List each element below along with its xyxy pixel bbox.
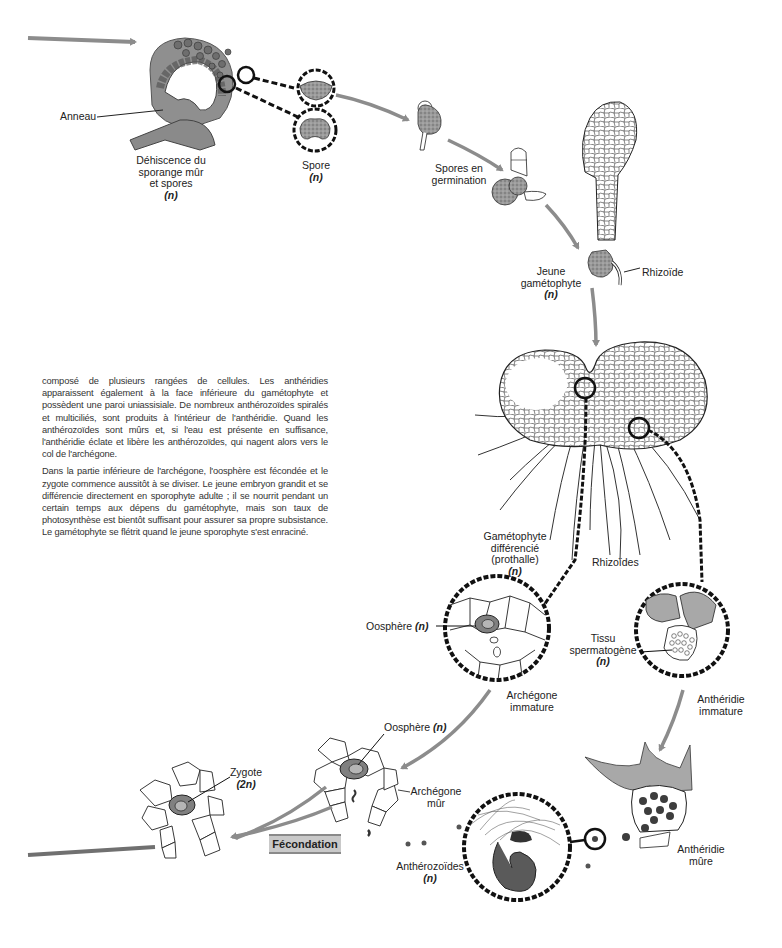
label-anneau-text: Anneau: [60, 110, 96, 122]
label-antherozoides: Anthérozoïdes (n): [393, 861, 467, 884]
label-gametophyte-differencie-ploidy: (n): [480, 566, 550, 578]
label-antherozoides-text: Anthérozoïdes: [393, 861, 467, 873]
label-antheridie-mure: Anthéridie mûre: [671, 844, 731, 867]
label-antherozoides-ploidy: (n): [393, 873, 467, 885]
label-archegone-immature-line2: immature: [502, 702, 562, 714]
body-paragraph-2: Dans la partie inférieure de l'archégone…: [42, 465, 328, 538]
antherozoide-zoom: [406, 794, 606, 900]
label-jeune-gametophyte-line1: Jeune: [517, 266, 585, 278]
archegone-mur: [314, 734, 410, 836]
label-anneau: Anneau: [60, 111, 96, 123]
label-zygote-text: Zygote: [226, 767, 266, 779]
label-dehiscence-line3: et spores: [126, 178, 216, 190]
label-antheridie-immature-line1: Anthéridie: [690, 694, 752, 706]
label-rhizoides: Rhizoïdes: [592, 557, 639, 569]
label-gametophyte-differencie: Gamétophyte différencié (prothalle) (n): [480, 531, 550, 577]
label-gametophyte-differencie-line3: (prothalle): [480, 554, 550, 566]
label-oosphere-1: Oosphère (n): [366, 621, 428, 633]
label-rhizoide-text: Rhizoïde: [642, 266, 683, 278]
spore-zoom: [219, 67, 336, 151]
label-tissu-spermatogene-ploidy: (n): [566, 656, 640, 668]
young-gametophyte: [582, 102, 640, 285]
label-archegone-mur: Archégone mûr: [406, 786, 466, 809]
antheridie-immature-zoom: [636, 584, 728, 676]
fecondation-arrow-2: [232, 807, 332, 837]
label-gametophyte-differencie-line1: Gamétophyte: [480, 531, 550, 543]
label-zygote-ploidy: (2n): [226, 779, 266, 791]
label-spores-germination-line2: germination: [427, 175, 491, 187]
fecondation-badge: Fécondation: [269, 834, 341, 854]
cycle-arrow-outgoing: [28, 847, 155, 855]
label-antheridie-mure-line1: Anthéridie: [671, 844, 731, 856]
label-spore: Spore (n): [296, 160, 336, 183]
germinating-spore-2: [492, 148, 546, 205]
label-archegone-immature: Archégone immature: [502, 690, 562, 713]
fecondation-arrow-1: [236, 787, 326, 838]
label-spore-text: Spore: [296, 160, 336, 172]
label-rhizoide: Rhizoïde: [642, 267, 683, 279]
label-oosphere-2: Oosphère (n): [384, 722, 446, 734]
label-spore-ploidy: (n): [296, 172, 336, 184]
label-oosphere-2-text: Oosphère: [384, 721, 430, 733]
body-text: composé de plusieurs rangées de cellules…: [42, 375, 328, 544]
body-paragraph-1: composé de plusieurs rangées de cellules…: [42, 375, 328, 460]
label-zygote: Zygote (2n): [226, 767, 266, 790]
label-dehiscence-ploidy: (n): [126, 190, 216, 202]
label-archegone-mur-line1: Archégone: [406, 786, 466, 798]
label-rhizoides-text: Rhizoïdes: [592, 556, 639, 568]
label-jeune-gametophyte-ploidy: (n): [517, 289, 585, 301]
cycle-arrow-incoming: [28, 38, 135, 42]
label-archegone-mur-line2: mûr: [406, 798, 466, 810]
label-antheridie-immature: Anthéridie immature: [690, 694, 752, 717]
cycle-arrow-3: [546, 205, 578, 248]
label-archegone-immature-line1: Archégone: [502, 690, 562, 702]
label-oosphere-1-text: Oosphère: [366, 620, 412, 632]
label-antheridie-immature-line2: immature: [690, 706, 752, 718]
label-tissu-spermatogene-line1: Tissu: [566, 633, 640, 645]
label-tissu-spermatogene: Tissu spermatogène (n): [566, 633, 640, 668]
label-spores-germination-line1: Spores en: [427, 163, 491, 175]
label-spores-germination: Spores en germination: [427, 163, 491, 186]
germinating-spore-1: [418, 101, 441, 150]
cycle-arrow-1: [336, 95, 408, 120]
cycle-arrow-6: [660, 690, 683, 750]
archegone-immature-zoom: [436, 576, 549, 680]
label-oosphere-1-ploidy: (n): [415, 620, 428, 632]
sporangium-illustration: [97, 38, 233, 150]
cycle-arrow-4: [592, 288, 596, 345]
label-dehiscence-line1: Déhiscence du: [126, 155, 216, 167]
label-dehiscence: Déhiscence du sporange mûr et spores (n): [126, 155, 216, 201]
label-antheridie-mure-line2: mûre: [671, 856, 731, 868]
label-oosphere-2-ploidy: (n): [433, 721, 446, 733]
zygote-illustration: [140, 762, 230, 858]
label-jeune-gametophyte: Jeune gamétophyte (n): [517, 266, 585, 301]
